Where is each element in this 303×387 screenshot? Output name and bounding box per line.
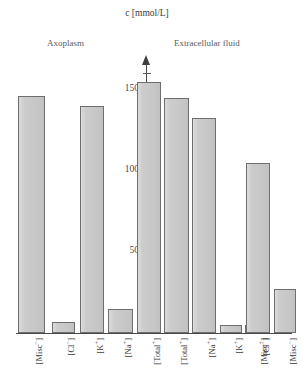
bar: [108, 309, 133, 333]
category-label: [Misc−]: [289, 338, 298, 364]
plot-area: 15010050 [Misc−][Cl−][K+][Na+][Total+][T…: [0, 0, 303, 387]
bar: [164, 98, 189, 333]
bar: [274, 289, 296, 333]
category-label: [Cl−]: [262, 338, 271, 355]
y-tick-label: 150: [105, 84, 139, 94]
category-label: [Total+]: [153, 338, 162, 365]
category-label: [K+]: [235, 338, 244, 354]
category-label: [K+]: [96, 338, 105, 354]
category-label: [Misc−]: [35, 338, 44, 364]
bar: [137, 82, 161, 333]
category-label: [Total+]: [180, 338, 189, 365]
category-label: [Cl−]: [67, 338, 76, 355]
bar: [220, 325, 242, 333]
y-tick-label: 50: [105, 246, 139, 256]
category-label: [Na+]: [124, 338, 133, 357]
category-label: [Na+]: [208, 338, 217, 357]
y-tick-minor: [143, 73, 151, 74]
x-axis-baseline: [16, 333, 292, 334]
bar: [80, 106, 104, 333]
figure-chart-ion-concentrations: c [mmol/L] Axoplasm Extracellular fluid …: [0, 0, 303, 387]
y-tick-label: 100: [105, 165, 139, 175]
bar: [192, 118, 216, 333]
bar: [52, 322, 75, 333]
y-axis-arrow-head: [142, 55, 150, 65]
bar: [18, 96, 45, 333]
bar: [246, 163, 270, 333]
